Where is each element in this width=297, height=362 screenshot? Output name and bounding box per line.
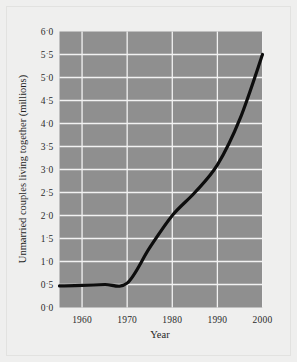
chart-figure: 0·00·51·01·52·02·53·03·54·04·55·05·56·0 … (0, 0, 297, 362)
x-axis-title: Year (150, 329, 170, 340)
x-axis-tick-label: 2000 (253, 315, 273, 325)
x-axis-tick-label: 1970 (117, 315, 137, 325)
y-axis-tick-label: 4·0 (41, 118, 54, 129)
x-axis-tick-label: 1980 (162, 315, 182, 325)
y-axis-tick-label: 0·0 (41, 302, 54, 313)
x-axis-tick-label: 1990 (207, 315, 227, 325)
y-axis-tick-label: 0·5 (41, 279, 54, 290)
y-axis-tick-label: 4·5 (41, 95, 54, 106)
y-axis-tick-label: 2·5 (41, 187, 54, 198)
y-axis-tick-label: 5·5 (41, 49, 54, 60)
y-axis-tick-label: 3·0 (41, 164, 54, 175)
y-axis-tick-label: 3·5 (41, 141, 54, 152)
x-axis-tick-label: 1960 (72, 315, 92, 325)
line-chart: 0·00·51·01·52·02·53·03·54·04·55·05·56·0 … (0, 0, 297, 362)
y-axis-tick-label: 2·0 (41, 210, 54, 221)
y-axis-tick-labels: 0·00·51·01·52·02·53·03·54·04·55·05·56·0 (41, 26, 54, 313)
y-axis-tick-label: 1·0 (41, 256, 54, 267)
y-axis-title: Unmarried couples living together (milli… (17, 74, 29, 263)
y-axis-tick-label: 1·5 (41, 233, 54, 244)
y-axis-tick-label: 6·0 (41, 26, 54, 37)
x-axis-tick-labels: 19601970198019902000 (72, 315, 272, 325)
y-axis-tick-label: 5·0 (41, 72, 54, 83)
